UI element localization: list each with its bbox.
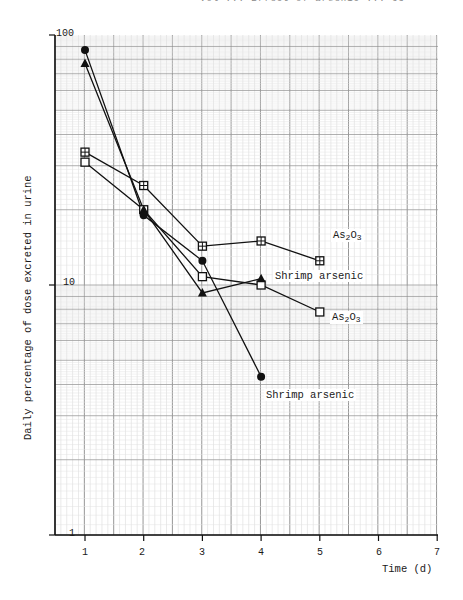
x-tick-1: 1 bbox=[82, 547, 88, 558]
annotation-shrimp-arsenic-lower: Shrimp arsenic bbox=[264, 389, 356, 401]
y-tick-1: 1 bbox=[69, 528, 75, 539]
x-tick-2: 2 bbox=[139, 547, 145, 558]
y-axis-label: Daily percentage of dose excreted in uri… bbox=[22, 175, 34, 440]
x-tick-6: 6 bbox=[376, 547, 382, 558]
annotation-as2o3-lower: As2O3 bbox=[330, 311, 363, 324]
x-tick-4: 4 bbox=[258, 547, 264, 558]
graph-paper-grid bbox=[55, 35, 438, 535]
series-lines bbox=[85, 50, 320, 377]
log-line-chart bbox=[0, 0, 463, 600]
annotation-as2o3-upper: As2O3 bbox=[331, 229, 364, 242]
y-tick-100: 100 bbox=[56, 28, 74, 39]
y-tick-10: 10 bbox=[63, 277, 75, 288]
x-tick-3: 3 bbox=[199, 547, 205, 558]
x-tick-5: 5 bbox=[317, 547, 323, 558]
annotation-shrimp-arsenic-upper: Shrimp arsenic bbox=[273, 270, 365, 282]
x-axis-label: Time (d) bbox=[382, 563, 432, 575]
x-tick-7: 7 bbox=[434, 547, 440, 558]
